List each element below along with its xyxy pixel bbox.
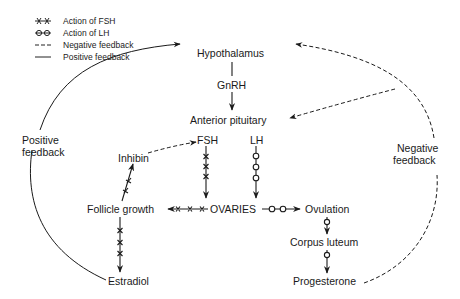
label-gnrh: GnRH bbox=[217, 79, 246, 91]
node-progesterone: Progesterone bbox=[293, 275, 356, 287]
legend-label-fsh: Action of FSH bbox=[63, 16, 115, 26]
positive-feedback-label-line2: feedback bbox=[22, 146, 65, 158]
negative-feedback-label-line1: Negative bbox=[397, 142, 438, 154]
legend-fsh-glyph bbox=[35, 18, 51, 24]
legend-label-lh: Action of LH bbox=[63, 28, 109, 38]
node-hypothalamus: Hypothalamus bbox=[197, 47, 264, 59]
node-inhibin: Inhibin bbox=[118, 152, 149, 164]
node-fsh: FSH bbox=[197, 134, 218, 146]
positive-feedback-label-line1: Positive bbox=[22, 134, 59, 146]
node-estradiol: Estradiol bbox=[108, 275, 149, 287]
hormone-feedback-diagram: Action of FSH Action of LH Negative feed… bbox=[0, 0, 460, 299]
node-anterior-pituitary: Anterior pituitary bbox=[190, 114, 266, 126]
node-lh: LH bbox=[250, 134, 263, 146]
node-follicle-growth: Follicle growth bbox=[87, 203, 154, 215]
negative-feedback-label-line2: feedback bbox=[393, 154, 436, 166]
legend-label-negative: Negative feedback bbox=[63, 40, 133, 50]
node-ovulation: Ovulation bbox=[305, 203, 349, 215]
node-ovaries: OVARIES bbox=[210, 203, 256, 215]
node-corpus-luteum: Corpus luteum bbox=[290, 236, 358, 248]
legend-label-positive: Positive feedback bbox=[63, 52, 130, 62]
legend-lh-glyph bbox=[35, 30, 51, 35]
